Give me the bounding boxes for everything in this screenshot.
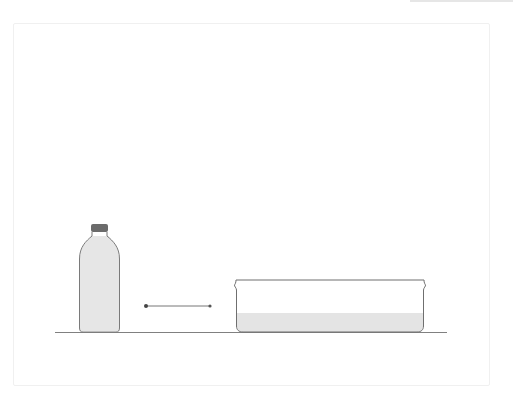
- bottle: [80, 224, 120, 332]
- bottle-water: [80, 236, 119, 331]
- arrow-right-icon: [144, 304, 212, 308]
- pan: [234, 280, 425, 332]
- pan-water: [237, 313, 423, 332]
- bottle-cap-icon: [91, 224, 108, 232]
- diagram-canvas: [0, 0, 513, 400]
